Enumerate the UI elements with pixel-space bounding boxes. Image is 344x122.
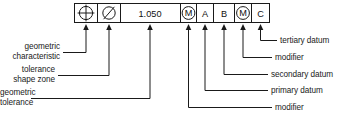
callout-line-1: tolerance xyxy=(0,65,55,75)
callout-line-1: geometric xyxy=(0,88,28,98)
arrowhead-tolerance-shape-zone xyxy=(106,24,112,30)
leader-tertiary-datum xyxy=(261,30,278,41)
callout-line-2: tolerance xyxy=(0,98,28,108)
arrowhead-tertiary-datum xyxy=(258,24,264,30)
gdt-callout-diagram: 1.050 M A B M C xyxy=(0,0,344,122)
secondary-datum-text: B xyxy=(221,9,227,19)
callout-label-tolerance-shape-zone: tolerance shape zone xyxy=(0,65,55,84)
arrowhead-geometric-characteristic xyxy=(83,24,89,30)
leader-tolerance-modifier xyxy=(189,30,273,108)
callout-label-tertiary-datum: tertiary datum xyxy=(280,36,329,46)
callout-label-tolerance-modifier: modifier xyxy=(275,103,304,113)
tertiary-datum-text: C xyxy=(257,9,264,19)
arrowhead-tolerance-modifier xyxy=(186,24,192,30)
leader-lines-right xyxy=(189,30,278,108)
leader-arrowheads xyxy=(83,24,263,30)
callout-line-2: shape zone xyxy=(0,75,55,85)
callout-label-secondary-datum: secondary datum xyxy=(271,70,333,80)
arrowhead-secondary-datum xyxy=(221,24,227,30)
callout-line-2: characteristic xyxy=(0,52,60,62)
callout-label-geometric-characteristic: geometric characteristic xyxy=(0,42,60,61)
feature-control-frame: 1.050 M A B M C xyxy=(75,4,270,23)
arrowhead-primary-datum xyxy=(202,24,208,30)
leader-datum-modifier xyxy=(243,30,272,58)
mmc-letter-datum: M xyxy=(239,8,247,18)
callout-label-datum-modifier: modifier xyxy=(275,53,304,63)
leader-secondary-datum xyxy=(224,30,268,75)
arrowhead-datum-modifier xyxy=(240,24,246,30)
leader-geometric-characteristic xyxy=(63,30,86,53)
callout-label-primary-datum: primary datum xyxy=(271,86,323,96)
leader-primary-datum xyxy=(205,30,268,91)
tolerance-value-text: 1.050 xyxy=(139,9,162,19)
callout-label-geometric-tolerance: geometric tolerance xyxy=(0,88,28,107)
arrowhead-geometric-tolerance xyxy=(147,24,153,30)
primary-datum-text: A xyxy=(202,9,209,19)
mmc-letter-tolerance: M xyxy=(185,8,193,18)
callout-line-1: geometric xyxy=(0,42,60,52)
